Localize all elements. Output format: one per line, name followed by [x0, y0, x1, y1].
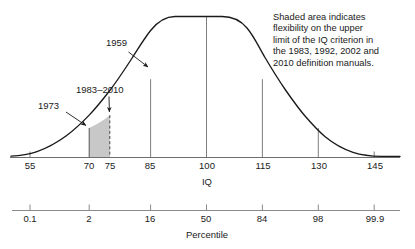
caption-line-2: flexibility on the upper: [273, 23, 379, 34]
iq-distribution-figure: 55 70 75 85 100 115 130 145 IQ 0.1 2 16 …: [0, 0, 415, 249]
caption-line-4: the 1983, 1992, 2002 and: [273, 46, 379, 57]
percentile-tick-label-0.1: 0.1: [16, 214, 44, 224]
percentile-tick-label-2: 2: [77, 214, 101, 224]
percentile-tick-label-98: 98: [306, 214, 330, 224]
annotation-1983-2010: 1983–2010: [76, 85, 124, 95]
caption-line-5: 2010 definition manuals.: [273, 58, 379, 69]
iq-tick-label-85: 85: [138, 161, 162, 171]
caption-line-3: limit of the IQ criterion in: [273, 35, 379, 46]
annotation-1959: 1959: [106, 38, 127, 48]
annotation-1973: 1973: [38, 101, 59, 111]
shaded-area-caption: Shaded area indicates flexibility on the…: [273, 12, 379, 69]
arrow-1973: [66, 112, 86, 126]
iq-tick-label-130: 130: [306, 161, 332, 171]
percentile-tick-label-99.9: 99.9: [360, 214, 390, 224]
percentile-tick-label-84: 84: [250, 214, 274, 224]
iq-tick-label-100: 100: [194, 161, 220, 171]
iq-tick-label-145: 145: [362, 161, 388, 171]
percentile-tick-label-16: 16: [138, 214, 162, 224]
iq-tick-label-75: 75: [98, 161, 122, 171]
iq-tick-label-55: 55: [18, 161, 42, 171]
caption-line-1: Shaded area indicates: [273, 12, 379, 23]
percentile-axis-ticks: [30, 205, 374, 211]
iq-axis-title: IQ: [194, 177, 220, 187]
percentile-tick-label-50: 50: [194, 214, 218, 224]
percentile-axis-title: Percentile: [176, 230, 238, 240]
shaded-region: [89, 115, 110, 157]
iq-tick-label-115: 115: [250, 161, 276, 171]
